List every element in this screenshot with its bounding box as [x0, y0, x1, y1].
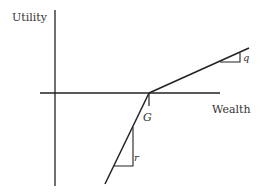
- x-axis-label: Wealth: [212, 103, 251, 116]
- y-axis-label: Utility: [12, 11, 47, 24]
- upper-utility-segment: [149, 48, 249, 93]
- diagram-svg: [0, 0, 261, 194]
- slope-label-r: r: [134, 152, 139, 163]
- utility-diagram: Utility Wealth G q r: [0, 0, 261, 194]
- slope-triangle-q: [220, 53, 240, 62]
- kink-point-label: G: [143, 111, 152, 124]
- lower-utility-segment: [105, 93, 149, 184]
- slope-label-q: q: [243, 52, 249, 63]
